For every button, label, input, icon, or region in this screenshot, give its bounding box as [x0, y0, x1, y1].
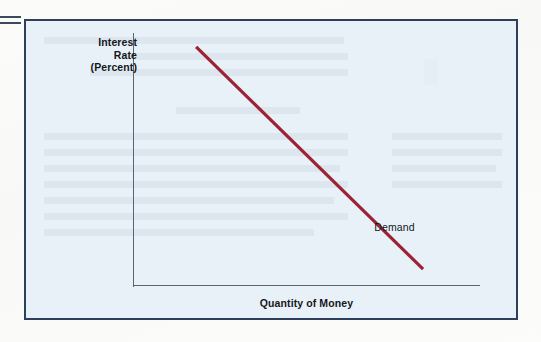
y-axis-label: Interest Rate (Percent) — [17, 36, 137, 74]
demand-curve-line — [196, 47, 423, 269]
demand-curve-label: Demand — [374, 221, 414, 233]
x-axis-label: Quantity of Money — [133, 297, 480, 309]
figure-frame: Interest Rate (Percent) Quantity of Mone… — [24, 19, 518, 320]
equals-crop-mark-icon — [0, 16, 21, 25]
crop-mark-bar-top — [0, 16, 21, 18]
y-axis-label-line-1: Interest — [17, 36, 137, 49]
crop-mark-bar-bottom — [0, 22, 21, 24]
figure-root: Interest Rate (Percent) Quantity of Mone… — [0, 0, 541, 342]
y-axis-label-line-2: Rate — [17, 49, 137, 62]
y-axis-label-line-3: (Percent) — [17, 61, 137, 74]
plot-area: Interest Rate (Percent) Quantity of Mone… — [26, 21, 520, 322]
